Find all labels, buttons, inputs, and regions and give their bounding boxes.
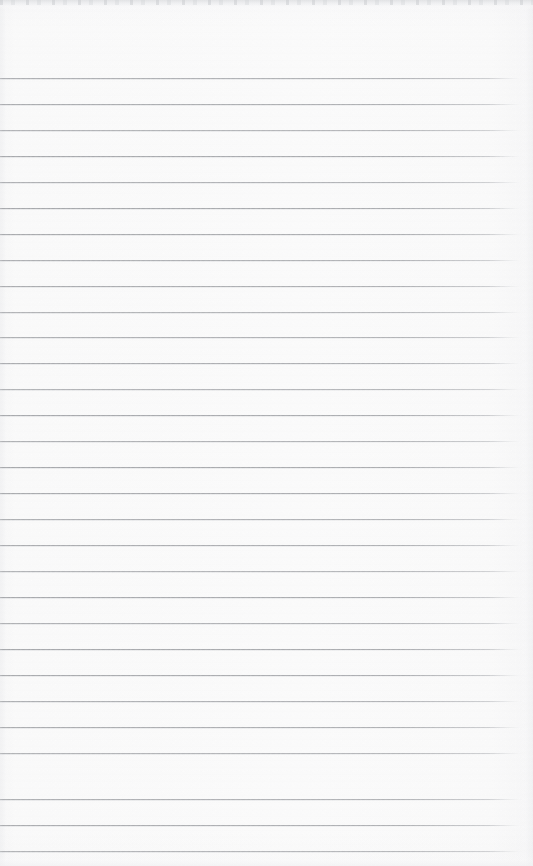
ruled-lines-group bbox=[0, 0, 533, 866]
rule-line bbox=[0, 234, 526, 235]
rule-line bbox=[0, 78, 526, 79]
rule-line bbox=[0, 182, 526, 183]
rule-line bbox=[0, 415, 526, 416]
scanned-page bbox=[0, 0, 533, 866]
rule-line bbox=[0, 312, 526, 313]
rule-line bbox=[0, 467, 526, 468]
rule-line bbox=[0, 156, 526, 157]
rule-line bbox=[0, 260, 526, 261]
rule-line bbox=[0, 649, 526, 650]
rule-line bbox=[0, 441, 526, 442]
rule-line bbox=[0, 727, 526, 728]
rule-line bbox=[0, 363, 526, 364]
rule-line bbox=[0, 286, 526, 287]
rule-line bbox=[0, 753, 526, 754]
rule-line bbox=[0, 337, 526, 338]
rule-line bbox=[0, 208, 526, 209]
rule-line bbox=[0, 104, 526, 105]
rule-line bbox=[0, 130, 526, 131]
rule-line bbox=[0, 597, 526, 598]
rule-line bbox=[0, 851, 526, 852]
rule-line bbox=[0, 493, 526, 494]
rule-line bbox=[0, 825, 526, 826]
rule-line bbox=[0, 571, 526, 572]
rule-line bbox=[0, 389, 526, 390]
rule-line bbox=[0, 545, 526, 546]
rule-line bbox=[0, 519, 526, 520]
rule-line bbox=[0, 799, 526, 800]
rule-line bbox=[0, 701, 526, 702]
rule-line bbox=[0, 675, 526, 676]
rule-line bbox=[0, 623, 526, 624]
